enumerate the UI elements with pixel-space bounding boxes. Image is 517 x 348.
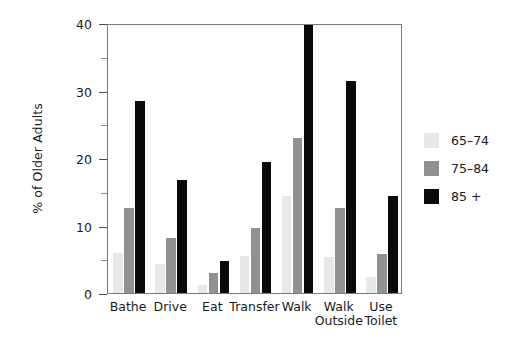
y-axis-tick-label: 30 [64, 84, 92, 99]
bar [282, 196, 292, 293]
y-axis-tick-major [99, 24, 107, 25]
bar [220, 261, 230, 293]
bar [240, 256, 250, 293]
bar [177, 180, 187, 293]
bar [293, 138, 303, 293]
legend-item: 75–84 [424, 154, 489, 182]
legend-swatch [424, 189, 439, 204]
bar [198, 285, 208, 293]
y-axis-tick-major [99, 227, 107, 228]
y-axis-tick-major [99, 159, 107, 160]
y-axis-tick-label: 20 [64, 152, 92, 167]
x-axis-category-label: Eat [202, 300, 222, 314]
bar [124, 208, 134, 293]
bar [262, 162, 272, 293]
y-axis-tick-label: 0 [64, 287, 92, 302]
legend: 65–7475–8485 + [424, 126, 489, 210]
x-axis-category-label: Walk Outside [315, 300, 363, 328]
x-axis-category-label: Walk [282, 300, 312, 314]
bar [377, 254, 387, 293]
bar [155, 264, 165, 293]
bar [304, 25, 314, 293]
bar-chart-figure: % of Older Adults 010203040 BatheDriveEa… [0, 0, 517, 348]
bar [366, 277, 376, 293]
x-axis-category-label: Drive [154, 300, 187, 314]
y-axis-tick-major [99, 92, 107, 93]
legend-swatch [424, 161, 439, 176]
bar [346, 81, 356, 293]
y-axis-title-text: % of Older Adults [30, 103, 45, 214]
legend-item: 85 + [424, 182, 489, 210]
legend-label: 65–74 [451, 133, 489, 148]
bar [113, 253, 123, 293]
y-axis-tick-label: 40 [64, 17, 92, 32]
bar [388, 196, 398, 293]
y-axis-tick-label: 10 [64, 219, 92, 234]
y-axis-tick-major [99, 294, 107, 295]
bar [324, 257, 334, 293]
x-axis-category-label: Use Toilet [365, 300, 398, 328]
plot-area [107, 24, 402, 294]
bar [251, 228, 261, 293]
bar [209, 273, 219, 293]
bar [135, 101, 145, 293]
legend-swatch [424, 133, 439, 148]
legend-label: 75–84 [451, 161, 489, 176]
bar [335, 208, 345, 293]
x-axis-category-label: Bathe [110, 300, 147, 314]
y-axis-title: % of Older Adults [26, 0, 48, 316]
bar [166, 238, 176, 293]
legend-label: 85 + [451, 189, 481, 204]
x-axis-category-label: Transfer [229, 300, 279, 314]
legend-item: 65–74 [424, 126, 489, 154]
